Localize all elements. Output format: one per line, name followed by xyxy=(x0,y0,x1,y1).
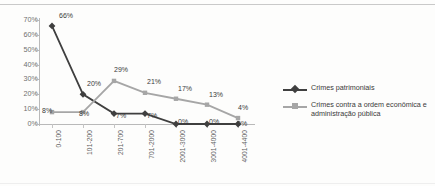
data-point-marker xyxy=(205,102,209,106)
data-label: 21% xyxy=(147,78,161,86)
data-point-marker xyxy=(143,91,147,95)
chart-legend: Crimes patrimoniais Crimes contra a orde… xyxy=(283,84,433,125)
legend-item-crimes-patrimoniais[interactable]: Crimes patrimoniais xyxy=(283,84,433,94)
data-label: 0% xyxy=(178,118,188,126)
data-label: 66% xyxy=(59,12,73,20)
legend-label: Crimes patrimoniais xyxy=(311,84,375,93)
data-label: 0% xyxy=(237,120,247,128)
data-point-marker xyxy=(174,97,178,101)
data-label: 7% xyxy=(116,112,126,120)
data-label: 4% xyxy=(238,104,248,112)
legend-item-crimes-ordem-economica[interactable]: Crimes contra a ordem econômica e admini… xyxy=(283,101,433,118)
legend-key-diamond-icon xyxy=(283,85,307,94)
data-label: 20% xyxy=(87,80,101,88)
chart-page: 0%10%20%30%40%50%60%70% 0-100101-200201-… xyxy=(0,0,435,186)
data-point-marker xyxy=(49,23,56,30)
data-label: 8% xyxy=(42,107,52,115)
data-label: 0% xyxy=(209,118,219,126)
data-label: 17% xyxy=(178,85,192,93)
legend-key-square-icon xyxy=(283,102,307,111)
data-label: 29% xyxy=(114,66,128,74)
data-label: 8% xyxy=(79,110,89,118)
data-point-marker xyxy=(112,79,116,83)
data-label: 7% xyxy=(147,112,157,120)
legend-label: Crimes contra a ordem econômica e admini… xyxy=(311,101,433,118)
data-label: 13% xyxy=(209,91,223,99)
